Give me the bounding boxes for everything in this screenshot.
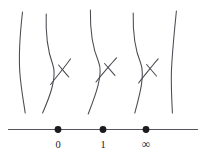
nodal-fiber-1-cross-arm bbox=[96, 58, 117, 82]
nodal-fiber-inf-cross-arm bbox=[139, 59, 159, 83]
fiber-diagram-svg: 0 1 ∞ bbox=[0, 0, 206, 157]
nodal-fiber-0-cross-arm-tail bbox=[59, 65, 69, 77]
base-point-dot-one bbox=[100, 126, 107, 133]
nodal-fiber-over-1 bbox=[88, 10, 116, 114]
base-point-dot-zero bbox=[55, 126, 62, 133]
base-point-label-zero: 0 bbox=[55, 139, 60, 150]
smooth-fiber-left-curve bbox=[19, 12, 25, 113]
nodal-fiber-0-main-branch bbox=[43, 14, 55, 113]
smooth-fiber-right bbox=[171, 11, 176, 113]
base-point-dot-infinity bbox=[143, 126, 150, 133]
smooth-fiber-right-curve bbox=[171, 11, 176, 113]
base-point-label-infinity: ∞ bbox=[142, 137, 151, 151]
smooth-fiber-left bbox=[19, 12, 25, 113]
nodal-fiber-1-main-branch bbox=[88, 10, 100, 114]
figure-container: 0 1 ∞ bbox=[0, 0, 206, 157]
nodal-fiber-inf-main-branch bbox=[133, 13, 142, 113]
base-point-label-one: 1 bbox=[100, 139, 105, 150]
nodal-fiber-over-0 bbox=[43, 14, 71, 113]
nodal-fiber-over-infinity bbox=[133, 13, 158, 113]
